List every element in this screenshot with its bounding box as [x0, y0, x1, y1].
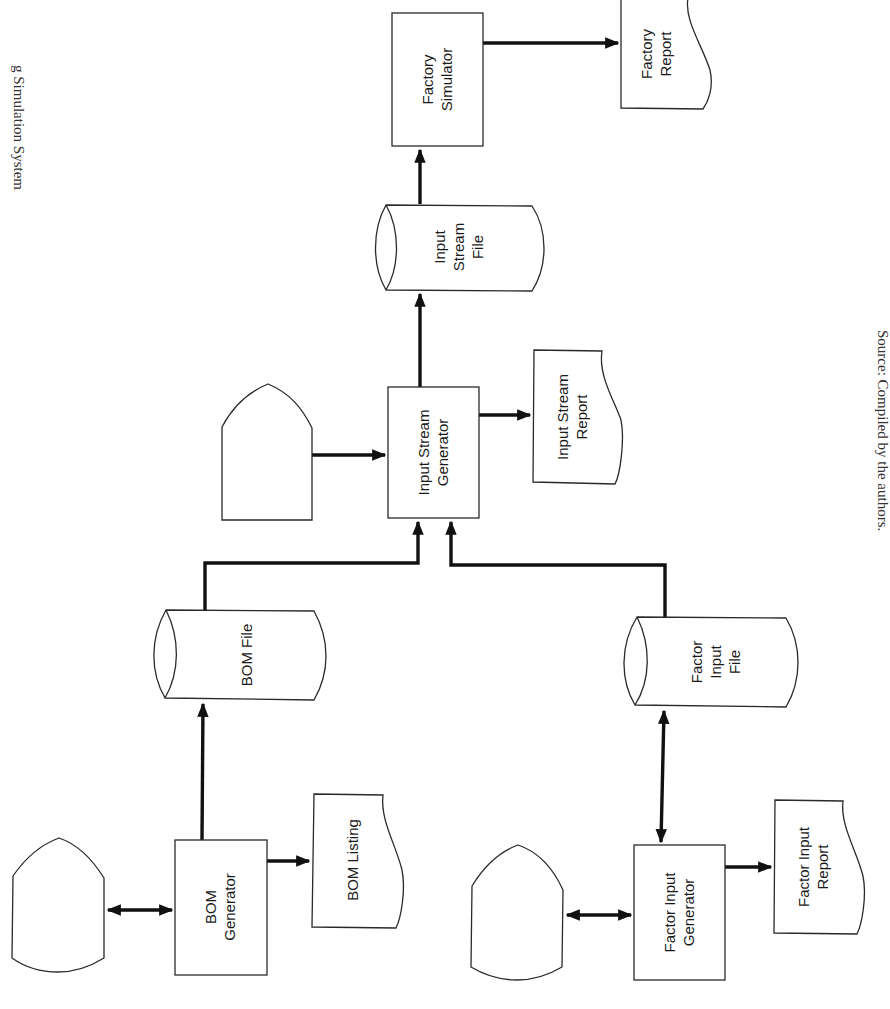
arrow-fif-to-isg	[451, 522, 665, 617]
node-label: BOM File	[238, 624, 255, 687]
node-label: Factor Input	[795, 826, 812, 907]
node-label: Simulator	[438, 48, 455, 111]
flowchart-canvas: Factory Simulator Factory Report Input S…	[0, 0, 890, 1009]
node-label: Factor Input	[661, 872, 678, 953]
node-label: Factory	[419, 54, 436, 105]
arrow-fig-fif	[661, 711, 664, 842]
node-factor-input-generator[interactable]: Factor Input Generator	[634, 845, 725, 980]
arrow-bomgen-to-bomfile	[202, 704, 203, 840]
node-factory-report[interactable]: Factory Report	[621, 0, 711, 109]
node-bom-listing[interactable]: BOM Listing	[312, 794, 403, 928]
node-label: Input Stream	[415, 410, 432, 496]
node-label: BOM Listing	[344, 819, 361, 901]
svg-text:g Simulation System: g Simulation System	[11, 65, 27, 190]
node-label: Factor	[688, 641, 705, 684]
node-factor-terminal[interactable]	[471, 845, 563, 980]
node-label: Stream	[450, 223, 467, 271]
node-label: Input Stream	[554, 374, 571, 460]
node-label: Report	[814, 844, 831, 890]
node-label: File	[469, 235, 486, 259]
node-input-stream-generator[interactable]: Input Stream Generator	[388, 387, 479, 518]
node-label: Generator	[680, 879, 697, 947]
node-label: Report	[573, 394, 590, 440]
node-input-stream-terminal[interactable]	[222, 384, 312, 520]
node-bom-generator[interactable]: BOM Generator	[175, 840, 267, 975]
node-bom-terminal[interactable]	[12, 838, 104, 972]
node-label: BOM	[202, 890, 219, 924]
figure-title: g Simulation System	[11, 65, 27, 190]
node-factory-simulator[interactable]: Factory Simulator	[392, 13, 483, 146]
svg-text:Source: Compiled by the author: Source: Compiled by the authors.	[875, 330, 890, 531]
node-factor-input-report[interactable]: Factor Input Report	[774, 800, 864, 934]
node-label: Generator	[221, 873, 238, 941]
node-input-stream-report[interactable]: Input Stream Report	[533, 350, 622, 484]
arrow-bomfile-to-isg	[205, 522, 418, 610]
source-caption: Source: Compiled by the authors.	[875, 330, 890, 531]
node-label: File	[726, 650, 743, 674]
node-label: Factory	[638, 28, 655, 79]
node-bom-file[interactable]: BOM File	[154, 610, 326, 700]
node-input-stream-file[interactable]: Input Stream File	[376, 205, 545, 291]
node-factor-input-file[interactable]: Factor Input File	[624, 617, 798, 707]
node-label: Input	[707, 644, 724, 678]
node-label: Input	[431, 229, 448, 263]
node-label: Report	[657, 31, 674, 77]
node-label: Generator	[434, 419, 451, 487]
